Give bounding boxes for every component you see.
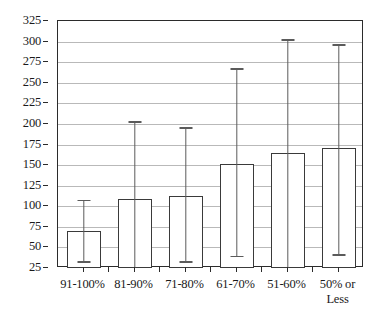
y-axis-tick-label: 325 <box>23 14 41 27</box>
x-axis-tick-mark <box>134 267 135 272</box>
gridline <box>58 247 362 248</box>
x-axis-tick-label: 71-80% <box>165 277 203 292</box>
x-axis-tick-label: 51-60% <box>267 277 305 292</box>
y-axis-tick-label: 100 <box>23 199 41 212</box>
chart-container: 325300275250225200175150125100755025 91-… <box>0 0 373 319</box>
error-bar-cap-lower <box>77 261 90 263</box>
y-axis-tick-mark <box>43 41 48 42</box>
y-axis-tick-mark <box>43 144 48 145</box>
error-bar-stem <box>134 121 135 268</box>
x-axis-tick-mark <box>338 267 339 272</box>
y-axis: 325300275250225200175150125100755025 <box>0 0 53 319</box>
y-axis-tick-label: 250 <box>23 76 41 89</box>
y-axis-tick-mark <box>43 185 48 186</box>
x-axis-tick-label: 91-100% <box>60 277 104 292</box>
error-bar-cap-upper <box>230 68 243 70</box>
y-axis-tick-mark <box>43 82 48 83</box>
error-bar-stem <box>185 127 186 261</box>
y-axis-tick-mark <box>43 20 48 21</box>
x-axis-tick-mark <box>210 267 211 272</box>
y-axis-tick-mark <box>43 102 48 103</box>
x-axis-tick-mark <box>108 267 109 272</box>
y-axis-tick-label: 25 <box>29 261 41 274</box>
x-axis-tick-mark <box>261 267 262 272</box>
x-axis-tick-mark <box>312 267 313 272</box>
x-axis-tick-label: 50% or Less <box>320 277 355 308</box>
error-bar-stem <box>236 68 237 256</box>
y-axis-tick-mark <box>43 246 48 247</box>
error-bar-cap-lower <box>179 261 192 263</box>
error-bar-cap-upper <box>281 39 294 41</box>
y-axis-tick-mark <box>43 226 48 227</box>
gridline <box>58 62 362 63</box>
y-axis-tick-mark <box>43 267 48 268</box>
error-bar-cap-lower <box>332 254 345 256</box>
x-axis-tick-mark <box>83 267 84 272</box>
error-bar-stem <box>83 200 84 262</box>
gridline <box>58 103 362 104</box>
error-bar-stem <box>287 39 288 268</box>
y-axis-tick-label: 200 <box>23 117 41 130</box>
error-bar-cap-upper <box>77 200 90 202</box>
x-axis-tick-mark <box>185 267 186 272</box>
y-axis-tick-mark <box>43 61 48 62</box>
gridline <box>58 206 362 207</box>
plot-area <box>57 20 363 267</box>
x-axis-tick-label: 61-70% <box>216 277 254 292</box>
y-axis-tick-label: 275 <box>23 55 41 68</box>
x-axis-tick-mark <box>236 267 237 272</box>
x-axis-tick-label: 81-90% <box>114 277 152 292</box>
x-axis-tick-mark <box>287 267 288 272</box>
gridline <box>58 83 362 84</box>
y-axis-tick-label: 50 <box>29 240 41 253</box>
y-axis-tick-mark <box>43 205 48 206</box>
y-axis-tick-mark <box>43 123 48 124</box>
y-axis-tick-mark <box>43 164 48 165</box>
y-axis-tick-label: 150 <box>23 158 41 171</box>
gridline <box>58 124 362 125</box>
error-bar-cap-upper <box>179 127 192 129</box>
gridline <box>58 145 362 146</box>
error-bar-stem <box>338 44 339 254</box>
error-bar-cap-lower <box>230 256 243 258</box>
gridline <box>58 42 362 43</box>
x-axis-tick-mark <box>159 267 160 272</box>
error-bar-cap-upper <box>128 121 141 123</box>
y-axis-tick-label: 175 <box>23 137 41 150</box>
gridline <box>58 165 362 166</box>
y-axis-tick-label: 300 <box>23 34 41 47</box>
gridline <box>58 186 362 187</box>
error-bar-cap-upper <box>332 44 345 46</box>
y-axis-tick-label: 75 <box>29 220 41 233</box>
y-axis-tick-label: 125 <box>23 178 41 191</box>
gridline <box>58 227 362 228</box>
y-axis-tick-label: 225 <box>23 96 41 109</box>
